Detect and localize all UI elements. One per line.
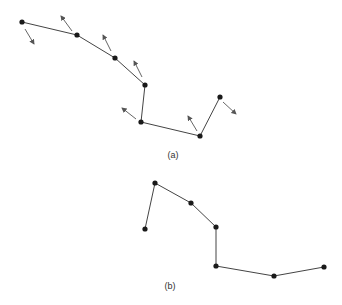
diagram-a-label: (a) — [168, 150, 179, 160]
node-point — [213, 224, 218, 229]
arrow-icon — [223, 102, 236, 114]
node-point — [271, 273, 276, 278]
chain-line — [145, 183, 324, 276]
arrow-icon — [188, 116, 197, 131]
chain-line — [22, 22, 220, 136]
node-point — [217, 94, 222, 99]
arrow-icon — [61, 16, 72, 31]
arrow-icon — [103, 35, 111, 51]
node-point — [213, 263, 218, 268]
arrow-icon — [25, 29, 34, 44]
diagram-b-label: (b) — [165, 281, 176, 291]
node-point — [197, 133, 202, 138]
node-point — [19, 19, 24, 24]
diagram-a-chain — [19, 16, 236, 139]
arrow-icon — [122, 108, 136, 119]
node-point — [321, 264, 326, 269]
diagram-b-chain — [142, 180, 326, 278]
node-point — [188, 200, 193, 205]
node-point — [152, 180, 157, 185]
node-point — [142, 226, 147, 231]
node-point — [142, 82, 147, 87]
node-point — [138, 119, 143, 124]
node-point — [74, 32, 79, 37]
node-point — [112, 55, 117, 60]
arrow-icon — [134, 61, 142, 77]
